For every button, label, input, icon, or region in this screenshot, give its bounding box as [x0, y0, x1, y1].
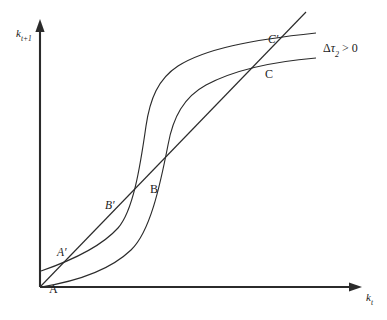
point-label-C-prime: C′ — [268, 34, 278, 46]
x-axis-arrowhead — [349, 282, 362, 291]
shifted-policy-curve — [41, 33, 316, 271]
initial-policy-curve — [41, 58, 316, 287]
x-axis-label-subscript: t — [371, 298, 373, 307]
x-axis-label: kt — [366, 292, 373, 306]
tau-subscript: 2 — [335, 50, 339, 59]
inequality-relation: > 0 — [342, 41, 358, 55]
forty-five-degree-line — [40, 12, 306, 287]
tax-shift-annotation: Δτ2> 0 — [323, 42, 358, 57]
point-label-B-prime: B′ — [105, 200, 115, 212]
y-axis-label: kt+1 — [16, 28, 32, 42]
y-axis-label-subscript: t+1 — [21, 34, 32, 43]
point-label-B: B — [150, 183, 158, 195]
y-axis-arrowhead — [35, 19, 44, 32]
delta-symbol: Δ — [323, 41, 331, 55]
point-label-A: A — [49, 283, 58, 295]
point-label-A-prime: A′ — [57, 247, 67, 259]
phase-diagram-figure: kt+1 kt Δτ2> 0 A A′ B B′ C C′ — [0, 0, 387, 320]
point-label-C: C — [265, 68, 273, 80]
